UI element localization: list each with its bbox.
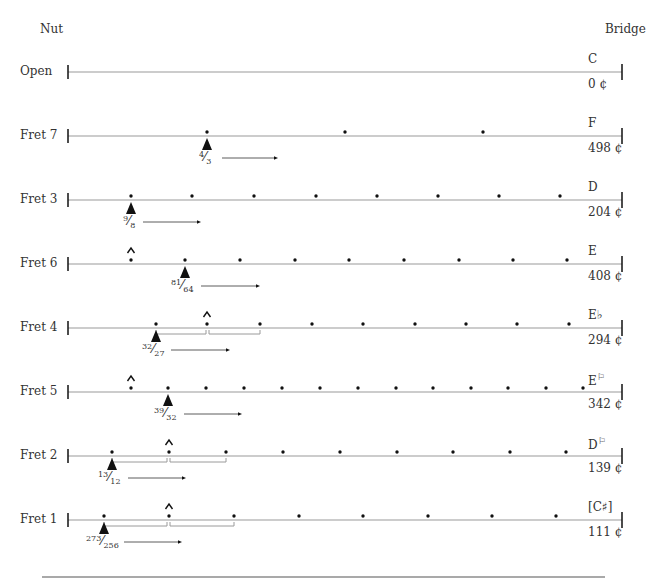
row-label: Fret 7 [20, 128, 57, 142]
cents-value: 204 ¢ [588, 205, 622, 219]
row-label: Fret 2 [20, 448, 57, 462]
ratio-fraction: 4⁄3 [199, 149, 211, 166]
node-dot [554, 514, 557, 517]
node-dot [102, 514, 105, 517]
node-dot [451, 450, 454, 453]
arrowhead-icon [256, 284, 260, 288]
node-dot [183, 258, 186, 261]
node-dot [469, 386, 472, 389]
arrowhead-icon [197, 220, 201, 224]
harmonic-caret-icon [166, 440, 173, 445]
node-dot [565, 258, 568, 261]
note-name: E⚐ [588, 372, 605, 388]
node-dot [281, 450, 284, 453]
ratio-fraction: 273⁄256 [86, 533, 119, 550]
segment-bracket [170, 458, 226, 462]
harmonic-caret-icon [204, 312, 211, 317]
ratio-fraction: 13⁄12 [98, 469, 121, 486]
node-dot [205, 130, 208, 133]
note-name: C [588, 52, 597, 66]
node-dot [293, 258, 296, 261]
node-dot [204, 386, 207, 389]
row-label: Fret 4 [20, 320, 57, 334]
node-dot [394, 386, 397, 389]
node-dot [258, 322, 261, 325]
node-dot [567, 322, 570, 325]
segment-bracket [170, 522, 234, 526]
node-dot [224, 450, 227, 453]
note-name: E♭ [588, 308, 602, 322]
node-dot [318, 386, 321, 389]
note-name: E [588, 244, 597, 258]
node-dot [232, 514, 235, 517]
node-dot [558, 194, 561, 197]
node-dot [395, 450, 398, 453]
cents-value: 498 ¢ [588, 141, 622, 155]
node-dot [361, 322, 364, 325]
node-dot [252, 194, 255, 197]
ratio-denominator: 32 [166, 413, 176, 422]
ratio-fraction: 32⁄27 [142, 341, 165, 358]
arrowhead-icon [226, 348, 230, 352]
row-label: Fret 6 [20, 256, 57, 270]
node-dot [297, 514, 300, 517]
node-dot [481, 130, 484, 133]
cents-value: 111 ¢ [588, 525, 622, 539]
node-dot [457, 258, 460, 261]
ratio-numerator: 273 [86, 534, 101, 543]
node-dot [508, 450, 511, 453]
node-dot [426, 514, 429, 517]
note-name: [C♯] [588, 500, 612, 514]
row-label: Open [20, 64, 52, 78]
cents-value: 0 ¢ [588, 77, 607, 91]
node-dot [310, 322, 313, 325]
note-name: F [588, 116, 596, 130]
segment-bracket [104, 522, 167, 526]
node-dot [190, 194, 193, 197]
half-flat-accidental-icon: ⚐ [598, 436, 606, 446]
segment-bracket [156, 330, 206, 334]
node-dot [205, 322, 208, 325]
arrowhead-icon [274, 156, 278, 160]
node-dot [464, 322, 467, 325]
node-dot [338, 450, 341, 453]
cents-value: 139 ¢ [588, 461, 622, 475]
arrowhead-icon [182, 476, 186, 480]
node-dot [581, 386, 584, 389]
ratio-denominator: 3 [206, 157, 211, 166]
node-dot [343, 130, 346, 133]
ratio-numerator: 39 [154, 406, 164, 415]
node-dot [511, 258, 514, 261]
ratio-denominator: 8 [130, 221, 135, 230]
node-dot [280, 386, 283, 389]
node-dot [129, 194, 132, 197]
ratio-denominator: 12 [110, 477, 120, 486]
node-dot [347, 258, 350, 261]
ratio-numerator: 32 [142, 342, 152, 351]
node-dot [314, 194, 317, 197]
node-dot [356, 386, 359, 389]
node-dot [129, 258, 132, 261]
harmonic-caret-icon [128, 376, 135, 381]
node-dot [242, 386, 245, 389]
node-dot [129, 386, 132, 389]
node-dot [110, 450, 113, 453]
cents-value: 294 ¢ [588, 333, 622, 347]
harmonic-caret-icon [166, 504, 173, 509]
ratio-numerator: 13 [98, 470, 108, 479]
node-dot [544, 386, 547, 389]
node-dot [402, 258, 405, 261]
node-dot [375, 194, 378, 197]
segment-bracket [209, 330, 260, 334]
ratio-fraction: 39⁄32 [154, 405, 177, 422]
cents-value: 342 ¢ [588, 397, 622, 411]
ratio-fraction: 81⁄64 [171, 277, 194, 294]
node-dot [497, 194, 500, 197]
harmonic-caret-icon [128, 248, 135, 253]
string-fret-diagram: Nut Bridge OpenC0 ¢Fret 7F498 ¢4⁄3Fret 3… [0, 0, 646, 580]
arrowhead-icon [178, 540, 182, 544]
ratio-denominator: 256 [103, 541, 118, 550]
node-dot [506, 386, 509, 389]
node-dot [564, 450, 567, 453]
row-label: Fret 5 [20, 384, 57, 398]
